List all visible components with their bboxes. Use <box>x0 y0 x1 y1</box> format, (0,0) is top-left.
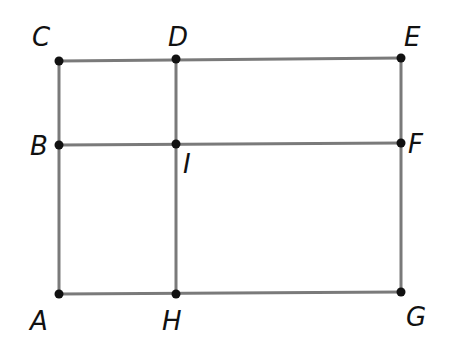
point-B <box>55 141 64 150</box>
label-I: I <box>183 149 191 179</box>
point-F <box>397 139 406 148</box>
point-labels: CDEBIFAHG <box>28 22 426 336</box>
label-H: H <box>162 306 182 336</box>
point-A <box>55 290 64 299</box>
point-D <box>172 55 181 64</box>
segment-AG <box>59 292 401 294</box>
segment-BF <box>59 143 401 145</box>
label-B: B <box>30 131 48 161</box>
point-G <box>397 288 406 297</box>
points <box>55 54 406 299</box>
point-E <box>397 54 406 63</box>
label-G: G <box>406 302 426 332</box>
point-C <box>55 57 64 66</box>
segment-CE <box>59 58 401 61</box>
label-A: A <box>28 306 48 336</box>
geometry-diagram: CDEBIFAHG <box>0 0 451 346</box>
label-E: E <box>404 22 421 52</box>
point-H <box>172 290 181 299</box>
point-I <box>172 140 181 149</box>
label-C: C <box>32 22 51 52</box>
label-D: D <box>168 22 188 52</box>
segments <box>59 58 401 294</box>
label-F: F <box>408 129 424 159</box>
